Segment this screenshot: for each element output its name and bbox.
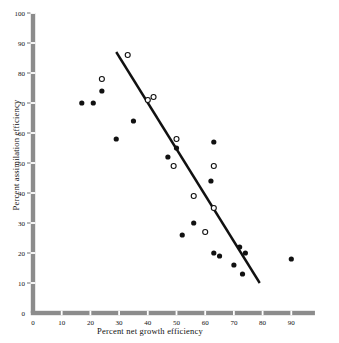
- y-axis-tick-mark: [27, 132, 30, 133]
- data-point-filled: [217, 253, 222, 258]
- data-point-filled: [131, 118, 136, 123]
- data-point-open: [125, 53, 130, 58]
- x-axis-tick: [233, 311, 235, 315]
- data-point-open: [191, 194, 196, 199]
- scatter-plot-figure: 0102030405060708090100010203040506070809…: [0, 0, 339, 343]
- data-point-open: [174, 137, 179, 142]
- y-axis-tick: [31, 72, 35, 74]
- y-axis-tick: [31, 12, 35, 14]
- data-point-filled: [240, 271, 245, 276]
- x-axis-tick: [90, 311, 92, 315]
- y-axis-tick: [31, 102, 35, 104]
- y-axis-tick-mark: [27, 72, 30, 73]
- data-point-filled: [174, 145, 179, 150]
- data-point-filled: [211, 139, 216, 144]
- data-point-open: [211, 206, 216, 211]
- y-axis-tick: [31, 252, 35, 254]
- y-axis-tick: [31, 282, 35, 284]
- x-axis-tick: [61, 311, 63, 315]
- y-axis-tick: [31, 222, 35, 224]
- data-point-open: [203, 230, 208, 235]
- y-axis-tick-label: 10: [18, 280, 26, 288]
- data-point-filled: [165, 154, 170, 159]
- data-point-filled: [208, 178, 213, 183]
- y-axis-tick: [31, 162, 35, 164]
- y-axis-tick-mark: [27, 162, 30, 163]
- y-axis-tick-mark: [27, 222, 30, 223]
- data-point-filled: [289, 256, 294, 261]
- data-point-open: [151, 95, 156, 100]
- data-point-filled: [211, 250, 216, 255]
- y-axis-tick-label: 100: [15, 10, 26, 18]
- x-axis-tick: [118, 311, 120, 315]
- x-axis-title: Percent net growth efficiency: [0, 326, 300, 336]
- y-axis-tick-mark: [27, 192, 30, 193]
- data-point-filled: [231, 262, 236, 267]
- data-point-filled: [191, 220, 196, 225]
- y-axis-tick-mark: [27, 282, 30, 283]
- x-axis-spine: [31, 311, 315, 315]
- y-axis-title: Percent assimilation efficiency: [11, 45, 21, 265]
- data-point-filled: [79, 100, 84, 105]
- data-point-open: [171, 164, 176, 169]
- data-point-filled: [91, 100, 96, 105]
- y-axis-tick: [31, 42, 35, 44]
- x-axis-tick: [147, 311, 149, 315]
- x-axis-tick: [176, 311, 178, 315]
- x-axis-tick: [290, 311, 292, 315]
- data-point-filled: [237, 244, 242, 249]
- y-axis-tick: [31, 192, 35, 194]
- data-point-open: [145, 98, 150, 103]
- data-point-filled: [114, 136, 119, 141]
- data-point-filled: [99, 88, 104, 93]
- x-axis-tick: [262, 311, 264, 315]
- data-point-filled: [180, 232, 185, 237]
- x-axis-tick: [204, 311, 206, 315]
- data-point-open: [99, 77, 104, 82]
- y-axis-tick-mark: [27, 42, 30, 43]
- data-point-open: [211, 164, 216, 169]
- plot-canvas: 0102030405060708090100010203040506070809…: [0, 0, 339, 343]
- y-axis-tick-mark: [27, 12, 30, 13]
- y-axis-tick-mark: [27, 102, 30, 103]
- y-axis-tick-label: 0: [22, 310, 26, 318]
- data-point-filled: [243, 250, 248, 255]
- y-axis-tick-mark: [27, 252, 30, 253]
- y-axis-tick: [31, 132, 35, 134]
